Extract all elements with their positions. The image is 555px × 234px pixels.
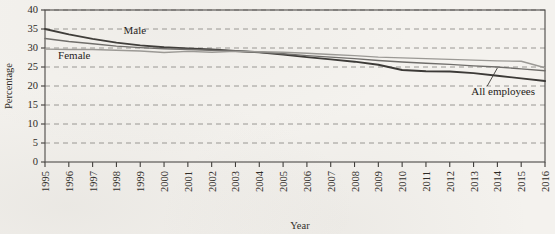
y-tick-label: 30	[28, 42, 39, 53]
x-tick-label: 2010	[397, 171, 408, 192]
chart-svg: Percentage Year 0510152025303540 1995199…	[0, 0, 555, 234]
series-label-all-employees: All employees	[471, 85, 535, 97]
x-tick-label: 1999	[135, 171, 146, 192]
series-label-female: Female	[58, 49, 90, 61]
x-axis-title: Year	[290, 220, 310, 231]
y-tick-label: 40	[28, 4, 39, 15]
y-tick-label: 35	[28, 23, 39, 34]
x-tick-label: 2013	[469, 171, 480, 192]
x-tick-label: 2006	[302, 171, 313, 192]
y-tick-label: 0	[33, 156, 38, 167]
x-tick-label: 2004	[254, 170, 265, 192]
gridlines-group	[45, 10, 545, 143]
x-tick-label: 2000	[159, 171, 170, 192]
x-tick-label: 1995	[40, 171, 51, 192]
line-chart: Percentage Year 0510152025303540 1995199…	[0, 0, 555, 234]
x-tick-label: 2003	[230, 171, 241, 192]
x-tick-label: 2014	[492, 170, 503, 192]
x-tick-label: 2005	[278, 171, 289, 192]
x-tick-label: 2015	[516, 171, 527, 192]
figure-container: Percentage Year 0510152025303540 1995199…	[0, 0, 555, 234]
y-axis-title: Percentage	[3, 63, 14, 109]
x-tick-label: 2012	[445, 171, 456, 192]
x-tick-label: 2001	[183, 171, 194, 192]
y-tick-label: 25	[28, 61, 39, 72]
x-tick-label: 2002	[207, 171, 218, 192]
x-tick-label: 2007	[326, 171, 337, 192]
y-tick-label: 15	[28, 99, 39, 110]
series-lines-group	[45, 29, 545, 81]
y-tick-label: 20	[28, 80, 39, 91]
x-tick-label: 1997	[88, 171, 99, 192]
x-tick-label: 2016	[540, 171, 551, 192]
x-tick-label: 2011	[421, 171, 432, 192]
x-tick-label: 2008	[350, 171, 361, 192]
annotation-leader-line	[487, 68, 497, 86]
y-tick-label: 5	[33, 137, 38, 148]
x-tick-label: 2009	[373, 171, 384, 192]
series-label-male: Male	[124, 24, 147, 36]
y-ticks-group: 0510152025303540	[28, 4, 46, 167]
y-tick-label: 10	[28, 118, 39, 129]
x-tick-label: 1998	[111, 171, 122, 192]
x-ticks-group: 1995199619971998199920002001200220032004…	[40, 162, 551, 192]
x-tick-label: 1996	[64, 171, 75, 192]
